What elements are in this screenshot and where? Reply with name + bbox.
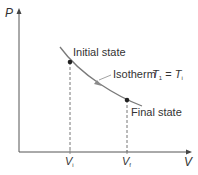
- condition-lhs: T: [152, 68, 159, 80]
- y-axis-arrow-icon: [17, 8, 22, 14]
- pv-diagram: [0, 0, 198, 175]
- vi-label: Vi: [65, 156, 74, 168]
- isotherm-label: Isotherm: [113, 69, 156, 80]
- temperature-condition: T1 = Ti: [152, 69, 183, 81]
- isotherm-leader-line: [99, 75, 111, 80]
- x-axis-label: V: [184, 156, 192, 168]
- condition-rhs-sub: i: [181, 75, 182, 81]
- vf-subscript: f: [129, 162, 131, 168]
- vf-label: Vf: [122, 156, 131, 168]
- initial-state-point: [68, 60, 73, 65]
- y-axis-label: P: [5, 7, 13, 19]
- axes: [17, 8, 193, 155]
- initial-state-label: Initial state: [73, 47, 126, 58]
- condition-lhs-sub: 1: [159, 75, 162, 81]
- final-state-point: [125, 98, 130, 103]
- vi-subscript: i: [72, 162, 73, 168]
- final-state-label: Final state: [131, 107, 182, 118]
- x-axis-arrow-icon: [186, 150, 192, 155]
- condition-eq: =: [165, 68, 171, 80]
